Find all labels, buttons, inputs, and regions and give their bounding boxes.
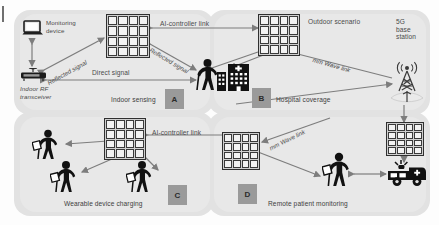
- hospital-building-icon: [216, 62, 250, 92]
- person-with-cane-icon-d: [322, 152, 354, 188]
- caption-c: Wearable device charging: [64, 200, 143, 208]
- ris-panel-icon-d2[interactable]: [386, 122, 424, 156]
- page-edge-rule: [2, 6, 4, 22]
- outdoor-scenario-label: Outdoor scenario: [308, 18, 360, 26]
- monitoring-device-label: Monitoring device: [46, 19, 90, 34]
- ai-controller-link-top-label: AI-controller link: [160, 20, 209, 28]
- indoor-rf-transceiver-label: Indoor RF transceiver: [20, 85, 64, 100]
- caption-b: Hospital coverage: [276, 96, 330, 104]
- person-with-cane-icon-c1: [32, 129, 62, 161]
- direct-signal-label: Direct signal: [92, 69, 130, 77]
- badge-b: B: [252, 88, 271, 108]
- caption-a: Indoor sensing: [111, 96, 156, 104]
- ris-panel-icon-d[interactable]: [222, 132, 260, 170]
- ris-panel-icon-a[interactable]: [106, 14, 150, 58]
- caption-d: Remote patient monitoring: [268, 200, 348, 208]
- person-with-cane-icon-c3: [126, 160, 156, 194]
- person-with-cane-icon-c2: [50, 160, 80, 194]
- badge-a: A: [165, 89, 184, 109]
- laptop-icon: [22, 20, 44, 38]
- ris-panel-icon-c[interactable]: [104, 118, 146, 160]
- badge-d: D: [238, 184, 257, 204]
- ambulance-icon: [384, 158, 428, 190]
- figure-canvas: Monitoring device Indoor RF transceiver …: [0, 0, 439, 225]
- cell-tower-icon: [390, 58, 424, 104]
- router-icon: [20, 68, 48, 82]
- badge-c: C: [168, 185, 187, 205]
- base-station-label: 5G base station: [396, 18, 432, 41]
- ai-controller-link-bottom-label: AI-controller link: [152, 129, 201, 137]
- ris-panel-icon-b[interactable]: [258, 14, 300, 56]
